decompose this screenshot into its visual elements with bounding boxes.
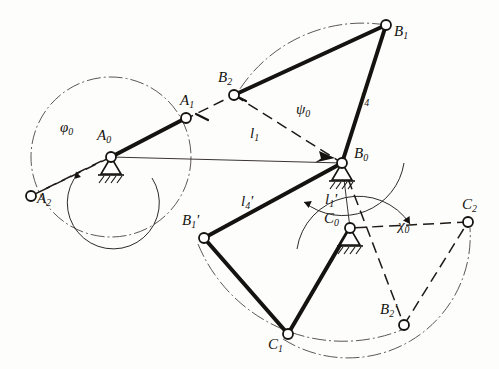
- rocker-link-l4-prime: [204, 163, 342, 238]
- coupler-link-upper: [234, 25, 386, 95]
- frame-line-l1: [111, 157, 342, 163]
- joint-C1: [283, 329, 293, 339]
- joint-B2-prime: [399, 320, 409, 330]
- label-joint-B1: B1: [394, 23, 408, 41]
- label-angle-phi-zero: φ0: [60, 119, 73, 137]
- label-joint-C1: C1: [268, 336, 283, 354]
- angle-arcs-group: [67, 163, 410, 249]
- label-joint-A0: A0: [97, 127, 111, 145]
- joint-A2: [26, 191, 36, 201]
- linkage-drawing: [0, 0, 499, 369]
- label-angle-psi-zero: ψ0: [296, 101, 310, 119]
- phi-angle-arc: [67, 178, 159, 249]
- path-arcs-group: [31, 23, 470, 358]
- coupler-prime-position-2: [404, 222, 468, 325]
- crank-end-tick: [196, 114, 208, 120]
- joint-A0: [106, 152, 116, 162]
- crank-link: [111, 118, 186, 157]
- label-angle-chi-zero: χ0: [398, 217, 410, 235]
- frame-lines-group: [111, 157, 350, 228]
- joint-B2: [229, 90, 239, 100]
- label-joint-A2: A2: [37, 190, 51, 208]
- joint-C2: [463, 217, 473, 227]
- coupler-link-lower: [204, 238, 288, 334]
- label-joint-A1: A1: [180, 92, 194, 110]
- label-joint-B2-prime: B2': [380, 301, 397, 319]
- label-length-l1-prime: l1': [325, 191, 337, 209]
- joint-B1: [381, 20, 391, 30]
- joint-B0: [337, 158, 347, 168]
- label-length-l4-prime: l4': [241, 193, 253, 211]
- joint-C0: [345, 223, 355, 233]
- label-joint-B1-prime: B1': [182, 212, 199, 230]
- label-joint-B0: B0: [354, 145, 368, 163]
- diagram-canvas: A0 A1 A2 B0 B1 B2 B1' B2' C0 C1 C2 l1 l4…: [0, 0, 499, 369]
- label-joint-B2: B2: [218, 69, 232, 87]
- label-length-l1: l1: [250, 125, 259, 143]
- joint-A1: [181, 113, 191, 123]
- label-length-l4: l4: [360, 90, 369, 108]
- b-prime-path-arc: [198, 244, 404, 341]
- joint-B1-prime: [199, 233, 209, 243]
- label-joint-C0: C0: [324, 210, 339, 228]
- label-joint-C2: C2: [462, 196, 477, 214]
- psi-angle-arc: [304, 163, 404, 216]
